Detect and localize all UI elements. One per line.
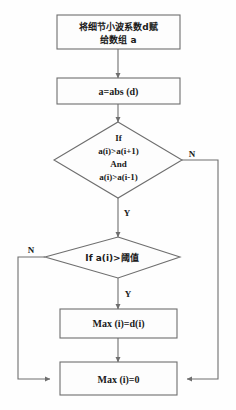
flowchart-svg: 将细节小波系数d赋 给数组 a a=abs (d) If a(i)>a(i+1)… xyxy=(0,0,236,410)
assign-coefficients-line-2: 给数组 a xyxy=(100,34,136,45)
flowchart-canvas: 将细节小波系数d赋 给数组 a a=abs (d) If a(i)>a(i+1)… xyxy=(0,0,236,410)
connector-localmax-no-to-maxzero xyxy=(182,160,218,379)
node-assign-coefficients: 将细节小波系数d赋 给数组 a xyxy=(57,15,180,49)
assign-coefficients-line-1: 将细节小波系数d赋 xyxy=(79,21,157,32)
abs-value-line-1: a=abs (d) xyxy=(99,86,139,98)
node-local-maximum-test: If a(i)>a(i+1) And a(i)>a(i-1) xyxy=(54,122,182,198)
connector-threshold-no-to-maxzero xyxy=(18,257,50,379)
node-threshold-test: If a(i)>阈值 xyxy=(45,237,180,278)
local-maximum-test-line-2: a(i)>a(i+1) xyxy=(98,146,139,156)
local-maximum-test-line-4: a(i)>a(i-1) xyxy=(99,172,138,182)
set-max-to-zero-line-1: Max (i)=0 xyxy=(97,374,139,386)
local-maximum-test-line-3: And xyxy=(110,159,127,169)
edge-label-localmax-no: N xyxy=(189,149,196,159)
edge-label-threshold-yes: Y xyxy=(125,289,132,299)
set-max-to-d-line-1: Max (i)=d(i) xyxy=(92,318,144,330)
local-maximum-test-line-1: If xyxy=(115,133,123,143)
node-set-max-to-zero: Max (i)=0 xyxy=(60,362,177,395)
node-abs-value: a=abs (d) xyxy=(57,78,180,104)
threshold-test-line-1: If a(i)>阈值 xyxy=(85,252,138,263)
edge-label-localmax-yes: Y xyxy=(124,208,131,218)
edge-label-threshold-no: N xyxy=(28,245,35,255)
node-set-max-to-d: Max (i)=d(i) xyxy=(60,309,177,338)
